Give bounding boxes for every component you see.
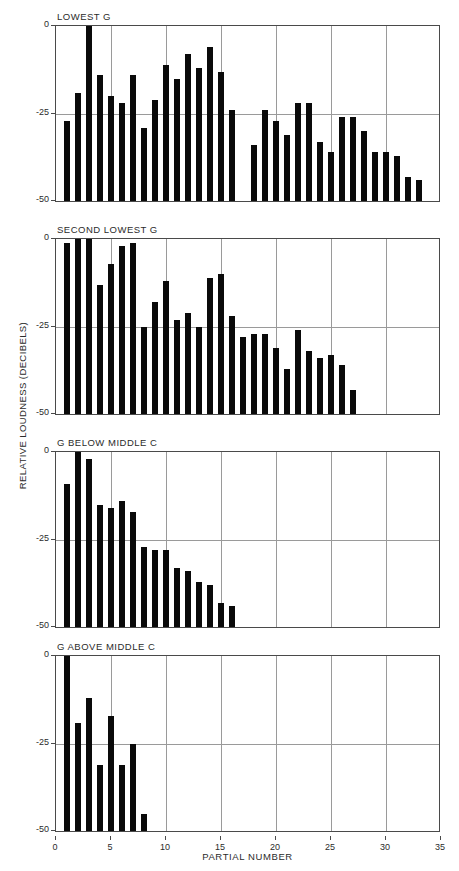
y-axis-tick-mark	[51, 626, 55, 627]
x-axis-tick-mark	[275, 836, 276, 840]
bar	[86, 26, 93, 201]
bar	[130, 744, 137, 832]
bar	[339, 365, 346, 414]
chart-panel: LOWEST G0-25-50	[55, 25, 440, 202]
bar	[141, 547, 148, 628]
bar	[130, 512, 137, 628]
bar	[196, 68, 203, 201]
bar	[64, 484, 71, 628]
bar	[218, 72, 225, 202]
bar	[218, 603, 225, 628]
bar	[119, 765, 126, 832]
x-axis-tick-mark	[440, 836, 441, 840]
x-axis-tick-mark	[55, 836, 56, 840]
bar	[405, 177, 412, 202]
y-axis-tick-label: 0	[15, 232, 49, 242]
bar	[108, 96, 115, 201]
panel-title: LOWEST G	[57, 11, 111, 22]
bar	[361, 131, 368, 201]
bar	[350, 390, 357, 415]
bar	[75, 239, 82, 414]
bar	[383, 152, 390, 201]
y-axis-tick-label: 0	[15, 445, 49, 455]
bar	[262, 110, 269, 201]
bar	[218, 274, 225, 414]
x-axis-tick-label: 15	[208, 842, 232, 852]
y-axis-tick-label: -50	[15, 824, 49, 834]
x-axis-tick-label: 5	[98, 842, 122, 852]
y-axis-tick-mark	[51, 200, 55, 201]
bar	[339, 117, 346, 201]
y-axis-tick-mark	[51, 25, 55, 26]
bar	[163, 65, 170, 202]
panel-title: SECOND LOWEST G	[57, 224, 158, 235]
bar	[163, 550, 170, 627]
bar	[207, 585, 214, 627]
x-axis-tick-label: 0	[43, 842, 67, 852]
y-axis-label: RELATIVE LOUDNESS (DECIBELS)	[17, 306, 28, 506]
bar	[229, 316, 236, 414]
y-axis-tick-mark	[51, 539, 55, 540]
bar	[240, 337, 247, 414]
x-axis-tick-mark	[330, 836, 331, 840]
bar	[108, 716, 115, 832]
plot-area	[55, 238, 440, 415]
y-axis-tick-label: -25	[15, 533, 49, 543]
bar	[97, 505, 104, 628]
bar	[284, 135, 291, 202]
plot-area	[55, 655, 440, 832]
y-axis-tick-label: -50	[15, 194, 49, 204]
bar	[251, 145, 258, 201]
bar	[229, 110, 236, 201]
bar	[174, 320, 181, 415]
x-axis: 05101520253035	[55, 836, 440, 856]
bar	[130, 75, 137, 201]
bar	[284, 369, 291, 415]
bar	[86, 459, 93, 627]
chart-panel: G ABOVE MIDDLE C0-25-50	[55, 655, 440, 832]
y-axis-tick-label: -25	[15, 320, 49, 330]
x-axis-tick-mark	[220, 836, 221, 840]
bar	[185, 313, 192, 415]
bar	[328, 355, 335, 415]
bar	[317, 142, 324, 202]
y-axis-tick-label: 0	[15, 19, 49, 29]
bar	[152, 100, 159, 202]
bar	[394, 156, 401, 202]
bar	[97, 285, 104, 415]
bar	[372, 152, 379, 201]
bar	[251, 334, 258, 415]
bar	[295, 330, 302, 414]
x-axis-tick-mark	[165, 836, 166, 840]
y-axis-tick-mark	[51, 113, 55, 114]
bar	[75, 723, 82, 832]
bar	[163, 281, 170, 414]
bar	[229, 606, 236, 627]
bar	[185, 54, 192, 201]
bar	[152, 302, 159, 414]
y-axis-tick-label: 0	[15, 649, 49, 659]
bar	[152, 550, 159, 627]
y-axis-tick-mark	[51, 451, 55, 452]
bar	[295, 103, 302, 201]
bar	[416, 180, 423, 201]
bar	[119, 246, 126, 414]
bar	[317, 358, 324, 414]
x-axis-tick-label: 30	[373, 842, 397, 852]
panel-title: G BELOW MIDDLE C	[57, 437, 157, 448]
bar	[306, 351, 313, 414]
plot-area	[55, 451, 440, 628]
bar	[75, 452, 82, 627]
bar	[141, 327, 148, 415]
bar	[97, 765, 104, 832]
bar	[75, 93, 82, 202]
y-axis-tick-mark	[51, 743, 55, 744]
x-axis-tick-mark	[110, 836, 111, 840]
y-axis-tick-label: -50	[15, 407, 49, 417]
bar	[174, 79, 181, 202]
bar	[86, 698, 93, 831]
bar	[108, 264, 115, 415]
y-axis-tick-label: -25	[15, 107, 49, 117]
bar	[141, 128, 148, 202]
bar	[196, 327, 203, 415]
